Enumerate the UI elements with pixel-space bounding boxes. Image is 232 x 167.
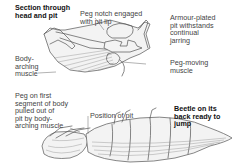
label-peg-notch: Peg notch engaged with pit lip — [80, 10, 142, 25]
head-pit-section — [44, 20, 150, 76]
label-peg-moving: Peg-moving muscle — [170, 59, 208, 74]
label-body-arching: Body- arching muscle — [15, 55, 39, 78]
label-position-of-pit: Position of pit — [90, 112, 133, 120]
label-section-title: Section through head and pit — [15, 4, 70, 19]
label-peg-first-segment: Peg on first segment of body pulled out … — [15, 92, 68, 130]
label-armour-pit: Armour-plated pit withstands continual j… — [170, 14, 216, 44]
label-beetle-ready: Beetle on its back ready to jump — [174, 105, 220, 128]
